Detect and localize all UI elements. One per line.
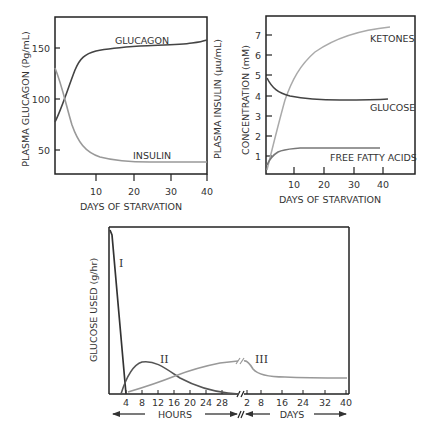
y-tick: 5 xyxy=(255,70,261,81)
x-tick-hours: 16 xyxy=(168,397,180,408)
x-tick: 40 xyxy=(377,179,389,190)
x-axis-label: DAYS OF STARVATION xyxy=(279,194,381,205)
curve-label-ii: II xyxy=(160,353,169,366)
curve-label-i: I xyxy=(119,257,123,270)
x-tick: 30 xyxy=(348,179,360,190)
curve-iii-hours xyxy=(128,361,238,392)
x-axis-label: DAYS OF STARVATION xyxy=(80,201,182,212)
y-axis-label: GLUCOSE USED (g/hr) xyxy=(88,258,99,362)
y-tick: 50 xyxy=(38,145,50,156)
x-tick-days: 40 xyxy=(340,397,352,408)
x-tick-hours: 24 xyxy=(200,397,212,408)
y-tick: 150 xyxy=(32,43,50,54)
y-tick: 100 xyxy=(32,94,50,105)
y-tick: 3 xyxy=(255,111,261,122)
y-axis-label-left: PLASMA GLUCAGON (Pg/mL) xyxy=(20,31,31,166)
x-tick-days: 32 xyxy=(319,397,331,408)
y-tick: 7 xyxy=(255,30,261,41)
series-label-insulin: INSULIN xyxy=(133,150,171,161)
x-tick-days: 24 xyxy=(297,397,309,408)
chart-concentration: 7 6 5 4 3 2 1 10 20 30 40 DAYS OF STARVA… xyxy=(240,16,417,205)
x-tick: 10 xyxy=(90,186,102,197)
x-tick-hours: 8 xyxy=(139,397,145,408)
insulin-curve xyxy=(55,68,207,162)
x-tick-hours: 28 xyxy=(216,397,228,408)
series-label-glucagon: GLUCAGON xyxy=(115,35,169,46)
x-tick: 10 xyxy=(288,179,300,190)
y-tick: 4 xyxy=(255,91,261,102)
figure: 150 100 50 10 20 30 40 DAYS OF STARVATIO… xyxy=(0,0,435,435)
hours-label: HOURS xyxy=(158,409,192,420)
chart-glucagon-insulin: 150 100 50 10 20 30 40 DAYS OF STARVATIO… xyxy=(20,17,223,212)
x-tick-hours: 12 xyxy=(152,397,164,408)
days-label: DAYS xyxy=(280,409,305,420)
series-label-ffa: FREE FATTY ACIDS xyxy=(330,152,417,163)
y-axis-label-right: PLASMA INSULIN (µu/mL) xyxy=(212,39,223,159)
curve-label-iii: III xyxy=(255,353,268,366)
glucagon-curve xyxy=(55,40,207,122)
series-label-glucose: GLUCOSE xyxy=(370,102,415,113)
x-tick-days: 16 xyxy=(276,397,288,408)
series-label-ketones: KETONES xyxy=(370,33,415,44)
x-tick: 20 xyxy=(318,179,330,190)
x-tick-hours: 4 xyxy=(123,397,129,408)
y-tick: 6 xyxy=(255,50,261,61)
x-tick-days: 2 xyxy=(244,397,250,408)
glucose-curve xyxy=(267,78,388,100)
y-axis-label: CONCENTRATION (mM) xyxy=(240,45,251,155)
y-tick: 1 xyxy=(255,151,261,162)
curve-i xyxy=(110,230,126,394)
x-tick-days: 8 xyxy=(258,397,264,408)
x-tick-hours: 20 xyxy=(184,397,196,408)
x-tick: 20 xyxy=(128,186,140,197)
chart-glucose-used: 4 8 12 16 20 24 28 2 8 16 24 32 40 HOURS… xyxy=(88,227,352,420)
x-tick: 30 xyxy=(165,186,177,197)
x-tick: 40 xyxy=(201,186,213,197)
y-tick: 2 xyxy=(255,131,261,142)
